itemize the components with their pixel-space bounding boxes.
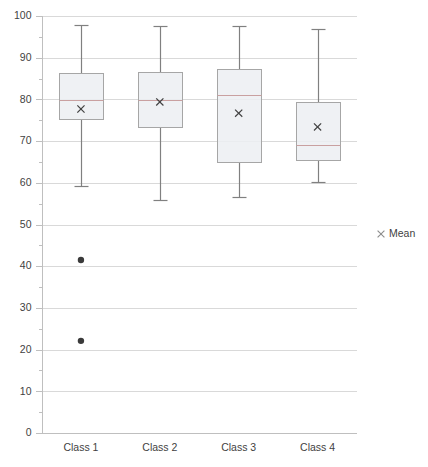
y-axis-tick-label: 70 <box>20 134 32 146</box>
box-body <box>60 74 104 120</box>
outlier-point <box>78 338 84 344</box>
x-axis-tick-labels: Class 1Class 2Class 3Class 4 <box>63 441 335 453</box>
box-plot-item <box>60 26 104 187</box>
y-axis-tick-label: 20 <box>20 343 32 355</box>
y-axis-tick-labels: 0102030405060708090100 <box>14 9 32 438</box>
x-axis-tick-label: Class 1 <box>63 441 98 453</box>
box-series <box>60 26 341 201</box>
x-axis-tick-label: Class 4 <box>300 441 335 453</box>
plot-area: 0102030405060708090100 Class 1Class 2Cla… <box>0 0 428 467</box>
y-axis-tick-label: 0 <box>26 426 32 438</box>
legend-entry-label: Mean <box>389 227 415 239</box>
box-body <box>218 70 262 163</box>
y-axis-tick-label: 60 <box>20 176 32 188</box>
x-axis-tick-label: Class 3 <box>221 441 256 453</box>
y-axis-tick-label: 50 <box>20 218 32 230</box>
outlier-point <box>78 257 84 263</box>
y-axis-tick-label: 10 <box>20 385 32 397</box>
box-plot-item <box>297 30 341 183</box>
outlier-points <box>78 257 84 344</box>
x-axis-tick-label: Class 2 <box>142 441 177 453</box>
y-axis-tick-label: 80 <box>20 93 32 105</box>
y-axis-tick-label: 100 <box>14 9 32 21</box>
y-axis-tick-label: 40 <box>20 259 32 271</box>
y-axis-tick-label: 90 <box>20 51 32 63</box>
legend: Mean <box>378 227 416 239</box>
box-plot-item <box>139 27 183 201</box>
box-plot-chart: 0102030405060708090100 Class 1Class 2Cla… <box>0 0 428 467</box>
box-body <box>297 103 341 161</box>
box-plot-item <box>218 27 262 198</box>
y-axis-tick-label: 30 <box>20 301 32 313</box>
